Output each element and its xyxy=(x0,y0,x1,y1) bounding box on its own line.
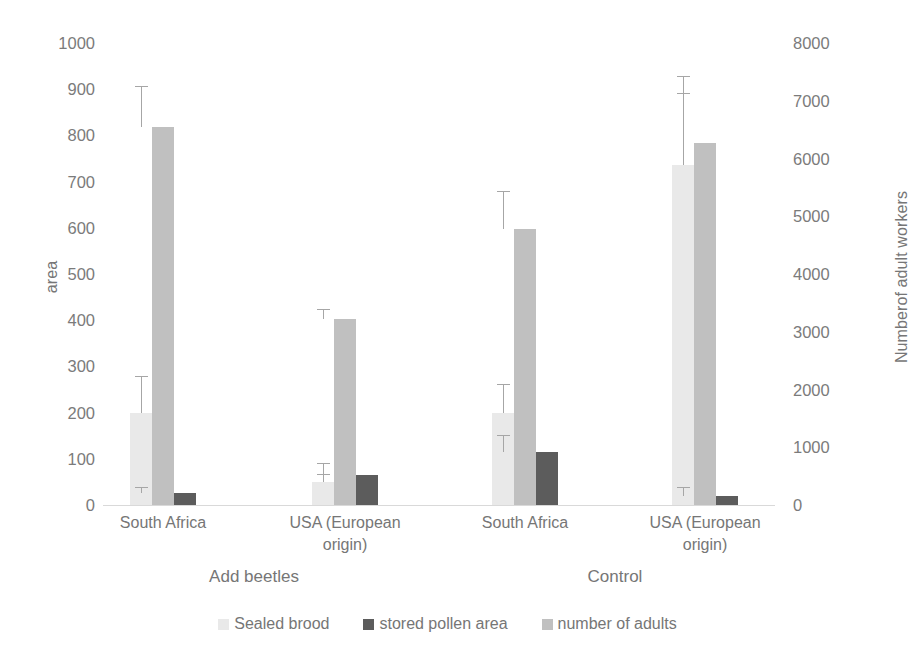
y-axis-left-tick: 800 xyxy=(35,127,95,143)
error-bar-line xyxy=(141,487,142,494)
error-bar-cap xyxy=(497,384,510,385)
x-axis-category-label: USA (European origin) xyxy=(277,512,413,556)
error-bar-line xyxy=(323,309,324,319)
legend-item: stored pollen area xyxy=(363,615,507,633)
bar-stored-pollen-area xyxy=(716,496,738,505)
error-bar xyxy=(312,309,334,319)
legend-label: Sealed brood xyxy=(234,615,329,633)
error-bar-cap xyxy=(135,376,148,377)
error-bar-cap xyxy=(317,309,330,310)
bar-group xyxy=(130,43,196,505)
error-bar-line xyxy=(503,191,504,229)
error-bar-cap xyxy=(497,191,510,192)
y-axis-left-tick: 1000 xyxy=(35,35,95,51)
y-axis-left-tick: 300 xyxy=(35,358,95,374)
bar-stored-pollen-area xyxy=(174,493,196,505)
x-axis-group-label: Add beetles xyxy=(174,566,334,588)
error-bar xyxy=(492,435,514,452)
bar-number-of-adults xyxy=(514,229,536,505)
bar-sealed-brood xyxy=(672,165,694,505)
error-bar-line xyxy=(683,487,684,495)
x-axis-category-label: South Africa xyxy=(95,512,231,534)
error-bar-line xyxy=(141,376,142,413)
y-axis-left-tick: 700 xyxy=(35,174,95,190)
y-axis-right-tick: 4000 xyxy=(793,266,863,282)
y-axis-left-tick: 400 xyxy=(35,312,95,328)
y-axis-right-tick: 7000 xyxy=(793,93,863,109)
y-axis-left-tick: 100 xyxy=(35,451,95,467)
bar-number-of-adults xyxy=(334,319,356,505)
y-axis-right-tick: 5000 xyxy=(793,208,863,224)
x-axis-group-labels: Add beetlesControl xyxy=(103,566,768,596)
error-bar-line xyxy=(503,435,504,452)
legend-swatch-icon xyxy=(218,619,229,630)
legend-item: number of adults xyxy=(542,615,677,633)
bar-group xyxy=(492,43,558,505)
error-bar-cap xyxy=(677,76,690,77)
x-axis-category-label: USA (European origin) xyxy=(637,512,773,556)
y-axis-right-ticks: 800070006000500040003000200010000 xyxy=(793,0,863,659)
legend-label: number of adults xyxy=(558,615,677,633)
error-bar-cap xyxy=(135,487,148,488)
y-axis-left-tick: 200 xyxy=(35,405,95,421)
y-axis-right-title: Numberof adult workers xyxy=(893,147,911,407)
legend-swatch-icon xyxy=(542,619,553,630)
y-axis-right-tick: 3000 xyxy=(793,324,863,340)
y-axis-left-tick: 0 xyxy=(35,497,95,513)
y-axis-left-tick: 900 xyxy=(35,81,95,97)
y-axis-right-tick: 2000 xyxy=(793,382,863,398)
error-bar xyxy=(672,93,694,143)
bar-group xyxy=(672,43,738,505)
error-bar xyxy=(130,86,152,127)
error-bar-cap xyxy=(317,463,330,464)
bar-stored-pollen-area xyxy=(536,452,558,505)
y-axis-right-tick: 0 xyxy=(793,497,863,513)
bar-number-of-adults xyxy=(152,127,174,505)
error-bar-cap xyxy=(135,86,148,87)
y-axis-right-tick: 1000 xyxy=(793,439,863,455)
x-axis-group-label: Control xyxy=(535,566,695,588)
bar-sealed-brood xyxy=(312,482,334,505)
error-bar-cap xyxy=(497,435,510,436)
error-bar xyxy=(492,384,514,413)
error-bar-line xyxy=(141,86,142,127)
legend-swatch-icon xyxy=(363,619,374,630)
error-bar-line xyxy=(323,463,324,475)
x-axis-category-labels: South AfricaUSA (European origin)South A… xyxy=(103,512,768,564)
x-axis-category-label: South Africa xyxy=(457,512,593,534)
error-bar xyxy=(672,487,694,495)
error-bar-line xyxy=(503,384,504,413)
y-axis-left-tick: 600 xyxy=(35,220,95,236)
y-axis-left-tick: 500 xyxy=(35,266,95,282)
error-bar-cap xyxy=(677,487,690,488)
legend-label: stored pollen area xyxy=(379,615,507,633)
chart-legend: Sealed broodstored pollen areanumber of … xyxy=(0,615,895,633)
y-axis-right-tick: 6000 xyxy=(793,151,863,167)
bar-number-of-adults xyxy=(694,143,716,505)
bar-stored-pollen-area xyxy=(356,475,378,505)
y-axis-left-ticks: 10009008007006005004003002001000 xyxy=(35,0,95,659)
error-bar-cap xyxy=(677,93,690,94)
error-bar xyxy=(130,376,152,413)
error-bar xyxy=(312,463,334,475)
y-axis-right-tick: 8000 xyxy=(793,35,863,51)
bar-sealed-brood xyxy=(492,413,514,505)
legend-item: Sealed brood xyxy=(218,615,329,633)
error-bar xyxy=(130,487,152,494)
axis-baseline xyxy=(103,505,775,506)
error-bar-line xyxy=(683,93,684,143)
error-bar xyxy=(492,191,514,229)
bar-group xyxy=(312,43,378,505)
plot-area xyxy=(103,43,768,505)
